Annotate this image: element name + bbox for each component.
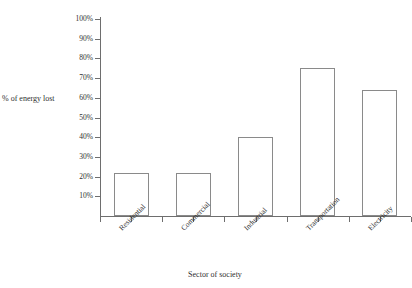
y-tick: [95, 118, 100, 119]
y-tick: [95, 177, 100, 178]
y-tick-label: 30%: [57, 153, 93, 161]
y-tick-label: 20%: [57, 173, 93, 181]
y-tick-label: 90%: [57, 35, 93, 43]
x-tick: [162, 217, 163, 222]
y-tick-label: 60%: [57, 94, 93, 102]
clipped-header-text: ··········: [100, 0, 125, 2]
y-tick-label: 80%: [57, 54, 93, 62]
y-tick-label: 10%: [57, 192, 93, 200]
y-tick-label: 50%: [57, 114, 93, 122]
y-tick: [95, 58, 100, 59]
y-tick-label: 100%: [57, 15, 93, 23]
y-tick-label: 70%: [57, 74, 93, 82]
x-tick: [349, 217, 350, 222]
y-tick: [95, 157, 100, 158]
bar: [300, 68, 335, 216]
chart-figure: ·········· % of energy lost 10%20%30%40%…: [0, 0, 412, 288]
x-tick: [287, 217, 288, 222]
x-tick: [224, 217, 225, 222]
bar: [362, 90, 397, 216]
y-tick: [95, 39, 100, 40]
y-tick: [95, 137, 100, 138]
y-tick: [95, 78, 100, 79]
y-tick: [95, 98, 100, 99]
bar: [238, 137, 273, 216]
y-tick-label: 40%: [57, 133, 93, 141]
x-axis-title-text: Sector of society: [170, 270, 242, 279]
y-tick: [95, 19, 100, 20]
y-tick: [95, 196, 100, 197]
x-axis-title: Sector of society: [0, 270, 412, 279]
x-tick: [100, 217, 101, 222]
y-axis-line: [100, 17, 101, 217]
